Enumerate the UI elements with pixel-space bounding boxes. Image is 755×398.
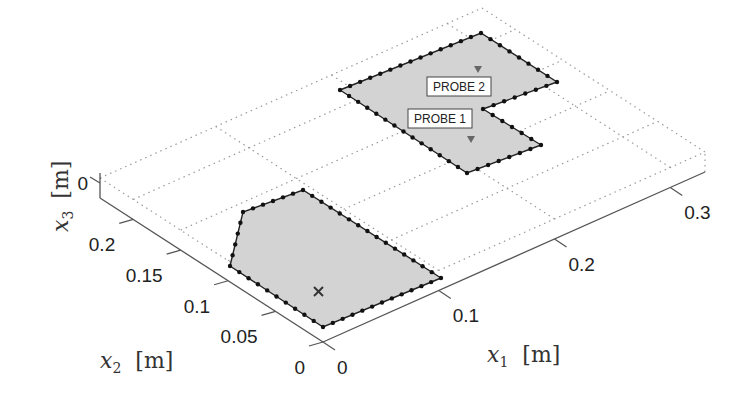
boundary-node	[331, 321, 335, 325]
boundary-node	[338, 211, 342, 215]
boundary-node	[281, 195, 285, 199]
boundary-node	[380, 300, 384, 304]
boundary-node	[390, 296, 394, 300]
boundary-node	[465, 171, 469, 175]
boundary-node	[534, 88, 538, 92]
boundary-node	[312, 319, 316, 323]
boundary-node	[347, 217, 351, 221]
boundary-node	[429, 280, 433, 284]
boundary-node	[544, 84, 548, 88]
boundary-node	[518, 151, 522, 155]
boundary-node	[233, 242, 237, 246]
x3-tick-label: 0	[77, 173, 88, 194]
boundary-node	[384, 241, 388, 245]
boundary-node	[356, 100, 360, 104]
upper-domain-fill	[340, 33, 557, 173]
boundary-node	[284, 300, 288, 304]
boundary-node	[408, 59, 412, 63]
boundary-node	[419, 141, 423, 145]
boundary-node	[438, 153, 442, 157]
lower-domain-fill	[230, 190, 441, 327]
boundary-node	[409, 288, 413, 292]
boundary-node	[365, 106, 369, 110]
boundary-node	[410, 135, 414, 139]
boundary-node	[456, 165, 460, 169]
boundary-node	[388, 67, 392, 71]
x1-tick	[670, 187, 682, 195]
x1-tick-label: 0.2	[569, 254, 595, 275]
boundary-node	[459, 39, 463, 43]
boundary-node	[526, 61, 530, 65]
lower-domain	[228, 188, 443, 329]
x2-tick-label: 0.2	[89, 234, 115, 255]
boundary-node	[310, 194, 314, 198]
boundary-node	[241, 210, 245, 214]
boundary-node	[439, 276, 443, 280]
x1-axis-label: x1[m]	[487, 342, 560, 370]
boundary-node	[545, 74, 549, 78]
boundary-node	[238, 221, 242, 225]
boundary-node	[383, 117, 387, 121]
probe-2-label: PROBE 2	[433, 80, 485, 94]
boundary-node	[418, 55, 422, 59]
probe-1-label: PROBE 1	[414, 112, 466, 126]
boundary-node	[517, 55, 521, 59]
boundary-node	[475, 167, 479, 171]
regions	[228, 31, 559, 329]
x2-tick	[214, 281, 228, 285]
boundary-node	[246, 276, 250, 280]
x1-tick	[439, 290, 451, 298]
x1-tick	[555, 239, 567, 247]
boundary-node	[236, 231, 240, 235]
x3-axis-label: x3[m]	[48, 161, 76, 232]
boundary-node	[498, 43, 502, 47]
boundary-node	[539, 143, 543, 147]
boundary-node	[447, 159, 451, 163]
boundary-node	[358, 80, 362, 84]
boundary-node	[486, 163, 490, 167]
boundary-node	[555, 80, 559, 84]
boundary-node	[319, 200, 323, 204]
plot-3d: 00.10.20.300.050.10.150.20 PROBE 2 PROBE…	[0, 0, 755, 398]
x2-tick-label: 0.15	[126, 265, 163, 286]
boundary-node	[481, 107, 485, 111]
boundary-node	[301, 188, 305, 192]
x2-tick	[262, 311, 276, 315]
boundary-node	[228, 264, 232, 268]
x2-tick-label: 0.05	[221, 326, 258, 347]
boundary-node	[230, 253, 234, 257]
boundary-node	[507, 49, 511, 53]
boundary-node	[402, 252, 406, 256]
boundary-node	[328, 205, 332, 209]
boundary-node	[368, 76, 372, 80]
boundary-node	[513, 95, 517, 99]
boundary-node	[293, 307, 297, 311]
upper-domain	[338, 31, 559, 175]
boundary-node	[256, 282, 260, 286]
boundary-node	[392, 123, 396, 127]
boundary-node	[488, 37, 492, 41]
boundary-node	[428, 51, 432, 55]
x2-axis-label: x2[m]	[100, 348, 173, 376]
boundary-node	[529, 137, 533, 141]
boundary-node	[350, 313, 354, 317]
boundary-node	[291, 191, 295, 195]
x1-tick-label: 0.1	[453, 305, 479, 326]
boundary-node	[528, 147, 532, 151]
boundary-node	[338, 88, 342, 92]
x1-tick	[323, 342, 335, 350]
x2-tick	[119, 219, 133, 223]
boundary-node	[449, 43, 453, 47]
x1-tick-label: 0.3	[684, 202, 710, 223]
boundary-node	[393, 246, 397, 250]
boundary-node	[265, 288, 269, 292]
boundary-node	[340, 317, 344, 321]
boundary-node	[519, 131, 523, 135]
boundary-node	[479, 31, 483, 35]
boundary-node	[261, 202, 265, 206]
boundary-node	[411, 258, 415, 262]
boundary-node	[237, 270, 241, 274]
boundary-node	[500, 119, 504, 123]
boundary-node	[502, 99, 506, 103]
boundary-node	[523, 91, 527, 95]
